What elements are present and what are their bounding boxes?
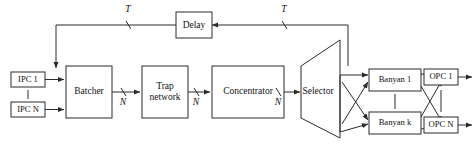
diagram-canvas: Delay T T IPC 1 IPC N Batcher N Trap net… — [0, 0, 474, 145]
switch-architecture-diagram: Delay T T IPC 1 IPC N Batcher N Trap net… — [0, 0, 474, 145]
batcher-label: Batcher — [74, 86, 104, 96]
selector-label: Selector — [302, 86, 334, 96]
link-label-concentrator-selector: N — [274, 97, 282, 107]
ipc-n-label: IPC N — [17, 104, 40, 114]
link-label-trap-concentrator: N — [192, 97, 200, 107]
link-label-batcher-trap: N — [119, 97, 127, 107]
concentrator-label: Concentrator — [223, 86, 273, 96]
ipc-1-label: IPC 1 — [18, 74, 38, 84]
wire-selector-banyank-direct — [340, 124, 368, 132]
wire-banyank-opc1-cross — [421, 80, 442, 117]
delay-label: Delay — [183, 20, 206, 30]
banyan-k-label: Banyan k — [379, 117, 412, 127]
feedback-tag-right: T — [281, 4, 287, 14]
banyan-1-label: Banyan 1 — [379, 74, 412, 84]
feedback-tag-left: T — [125, 4, 131, 14]
trap-network-label-line1: Trap — [156, 81, 174, 91]
opc-n-label: OPC N — [428, 119, 454, 129]
opc-1-label: OPC 1 — [429, 71, 452, 81]
trap-network-label-line2: network — [149, 92, 180, 102]
